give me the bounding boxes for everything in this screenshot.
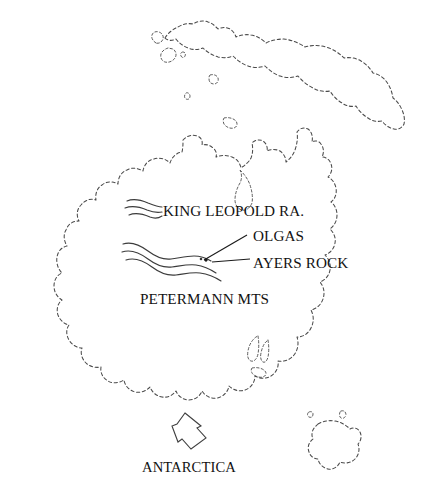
king-leopold-range-line-2 [125,207,162,213]
king-leopold-range-line-3 [129,214,162,219]
arrow-icon [172,413,206,449]
label-petermann-mts: PETERMANN MTS [140,290,269,307]
spencer-gulf [248,336,259,361]
australia-map-svg: KING LEOPOLD RA. OLGAS AYERS ROCK PETERM… [0,0,435,501]
kangaroo-island [251,368,266,378]
landmass-tasmania [308,411,362,469]
tasmania-coastline [308,421,361,470]
mountain-range-petermann [122,243,221,281]
island-timor [223,118,237,129]
king-leopold-range-line-1 [127,200,162,207]
olgas-dot [200,258,202,260]
map-canvas: KING LEOPOLD RA. OLGAS AYERS ROCK PETERM… [0,0,435,501]
petermann-range-line-2 [122,251,216,273]
label-leader-lines [204,235,250,262]
island-ceram [209,75,218,84]
gulf-st-vincent [261,340,269,362]
new-guinea-birdhead-detail [161,48,176,62]
new-guinea-coastline [165,21,404,129]
landmass-new-guinea [152,21,405,129]
label-antarctica: ANTARCTICA [142,459,236,475]
label-ayers-rock: AYERS ROCK [253,254,348,271]
new-guinea-west-islands [152,32,164,44]
island-buru [185,93,191,100]
petermann-range-line-3 [126,259,221,281]
label-king-leopold-ra: KING LEOPOLD RA. [163,202,304,219]
label-olgas: OLGAS [253,227,304,244]
flinders-island [308,412,314,418]
island-small-nw [181,52,186,58]
direction-arrow [172,413,206,449]
king-island [340,411,347,419]
ayers-rock-leader-line [212,259,250,262]
olgas-leader-line [204,235,247,260]
mountain-range-king-leopold [125,200,162,219]
